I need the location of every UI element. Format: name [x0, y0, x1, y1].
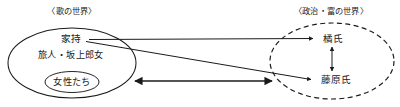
- node-yakamochi: 家持: [61, 33, 82, 44]
- relationship-diagram: 〈歌の世界〉 〈政治・富の世界〉 家持 旅人・坂上郎女 女性たち 橘氏 藤原氏: [0, 0, 400, 107]
- node-women-group: 女性たち: [53, 76, 91, 87]
- left-world-title: 〈歌の世界〉: [47, 6, 96, 16]
- connector-yakamochi-to-fujiwara: [86, 42, 311, 80]
- diagram-canvas: 〈歌の世界〉 〈政治・富の世界〉 家持 旅人・坂上郎女 女性たち 橘氏 藤原氏: [0, 0, 400, 107]
- node-fujiwara-clan: 藤原氏: [321, 74, 352, 85]
- connector-yakamochi-to-tachibana: [89, 39, 313, 40]
- right-world-title: 〈政治・富の世界〉: [294, 6, 368, 16]
- node-tabito-sakanoue: 旅人・坂上郎女: [38, 49, 104, 60]
- node-tachibana-clan: 橘氏: [323, 33, 344, 44]
